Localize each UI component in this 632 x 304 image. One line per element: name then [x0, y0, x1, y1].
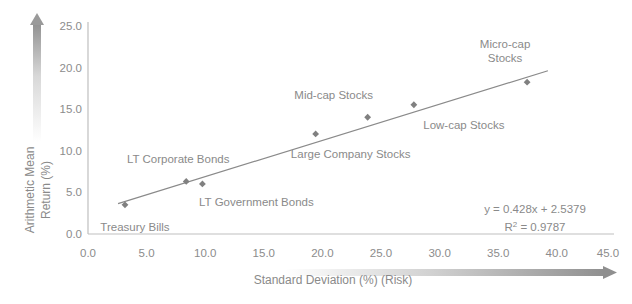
y-tick-0: 0.0	[66, 228, 82, 240]
x-tick-7: 35.0	[487, 247, 509, 259]
x-tick-1: 5.0	[139, 247, 155, 259]
y-axis-gradient-arrow	[30, 13, 44, 142]
data-point-marker	[410, 101, 417, 108]
data-points-layer: Treasury BillsLT Corporate BondsLT Gover…	[100, 38, 530, 233]
data-point-label: Low-cap Stocks	[423, 119, 504, 131]
data-point-marker	[312, 131, 319, 138]
data-point-label: Micro-capStocks	[480, 38, 530, 64]
y-tick-4: 20.0	[60, 62, 82, 74]
x-tick-0: 0.0	[80, 247, 96, 259]
regression-equation: y = 0.428x + 2.5379	[484, 203, 586, 215]
r-squared-value: = 0.9787	[517, 221, 565, 233]
data-point-label: Large Company Stocks	[291, 148, 411, 160]
y-tick-5: 25.0	[60, 20, 82, 32]
data-point-marker	[364, 114, 371, 121]
scatter-chart: 0.0 5.0 10.0 15.0 20.0 25.0 0.0 5.0 10.0…	[0, 0, 632, 304]
data-point-label: LT Government Bonds	[199, 196, 314, 208]
r-squared-annotation: R2 = 0.9787	[504, 220, 565, 233]
x-tick-4: 20.0	[311, 247, 333, 259]
chart-canvas: 0.0 5.0 10.0 15.0 20.0 25.0 0.0 5.0 10.0…	[0, 0, 632, 304]
x-tick-6: 30.0	[428, 247, 450, 259]
x-axis-title: Standard Deviation (%) (Risk)	[254, 273, 413, 287]
data-point-label: Treasury Bills	[100, 221, 169, 233]
y-axis-tick-labels: 0.0 5.0 10.0 15.0 20.0 25.0	[60, 20, 82, 240]
x-tick-8: 40.0	[546, 247, 568, 259]
data-point-label: LT Corporate Bonds	[127, 153, 230, 165]
data-point-marker	[199, 181, 206, 188]
data-point-label: Mid-cap Stocks	[294, 89, 373, 101]
y-axis-title-line2: Return (%)	[39, 161, 53, 219]
y-tick-3: 15.0	[60, 103, 82, 115]
x-tick-3: 15.0	[253, 247, 275, 259]
y-axis-title-line1: Arithmetic Mean	[23, 147, 37, 234]
y-tick-1: 5.0	[66, 186, 82, 198]
y-tick-2: 10.0	[60, 145, 82, 157]
x-tick-9: 45.0	[597, 247, 619, 259]
r-squared-prefix: R	[504, 221, 512, 233]
x-tick-2: 10.0	[194, 247, 216, 259]
x-tick-5: 25.0	[370, 247, 392, 259]
data-point-marker	[524, 79, 531, 86]
x-axis-tick-labels: 0.0 5.0 10.0 15.0 20.0 25.0 30.0 35.0 40…	[80, 247, 619, 259]
